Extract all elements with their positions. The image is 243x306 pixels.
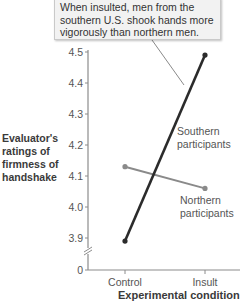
- y-tick-label: 4.2: [68, 139, 83, 151]
- y-tick-label: 4.5: [68, 46, 83, 58]
- series-label-line: Southern: [177, 125, 231, 138]
- data-point: [122, 164, 127, 169]
- data-point: [122, 239, 127, 244]
- y-axis-label-line: Evaluator's: [2, 132, 64, 145]
- annotation-leader-line: [152, 40, 184, 85]
- data-point: [202, 53, 207, 58]
- x-tick-label: Insult: [192, 276, 217, 288]
- x-axis-label: Experimental condition: [118, 289, 240, 301]
- y-tick-label: 4.1: [68, 170, 83, 182]
- series-label-line: participants: [180, 207, 234, 220]
- y-axis-label-line: handshake: [2, 171, 64, 184]
- y-tick-label: 0: [77, 264, 83, 276]
- series-label-northern: Northern participants: [180, 194, 234, 220]
- series-label-line: participants: [177, 138, 231, 151]
- y-axis-label-line: ratings of: [2, 145, 64, 158]
- y-tick-label: 4.0: [68, 201, 83, 213]
- x-tick-label: Control: [108, 276, 142, 288]
- y-axis-label-line: firmness of: [2, 158, 64, 171]
- y-tick-label: 4.4: [68, 77, 83, 89]
- data-point: [202, 186, 207, 191]
- y-tick-label: 4.3: [68, 108, 83, 120]
- annotation-callout: When insulted, men from the southern U.S…: [54, 0, 221, 40]
- y-axis-label: Evaluator's ratings of firmness of hands…: [2, 132, 64, 184]
- annotation-line: vigorously than northern men.: [60, 26, 215, 39]
- annotation-line: When insulted, men from the: [60, 1, 215, 14]
- series-line-northern: [125, 167, 205, 189]
- series-label-line: Northern: [180, 194, 234, 207]
- y-tick-label: 3.9: [68, 232, 83, 244]
- series-label-southern: Southern participants: [177, 125, 231, 151]
- annotation-line: southern U.S. shook hands more: [60, 14, 215, 27]
